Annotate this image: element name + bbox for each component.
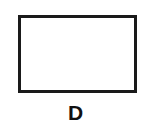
rectangle-shape bbox=[18, 15, 137, 93]
shape-label: D bbox=[0, 102, 151, 123]
